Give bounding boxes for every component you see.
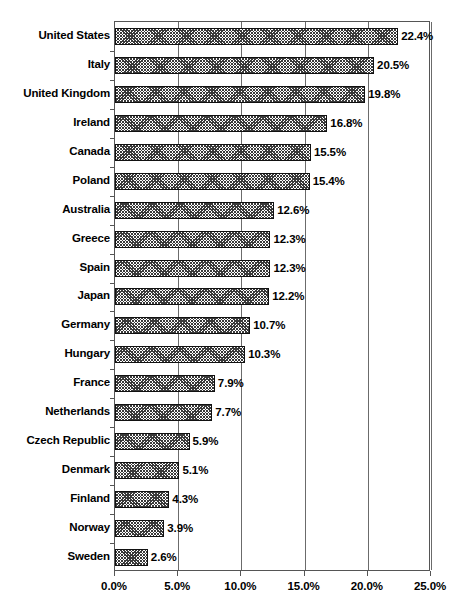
bar xyxy=(115,115,327,132)
y-axis-tick xyxy=(110,543,115,544)
bar-row: 7.7% xyxy=(115,404,431,421)
bar xyxy=(115,433,190,450)
y-axis-tick xyxy=(110,485,115,486)
bar-value-label: 16.8% xyxy=(330,115,362,132)
bar-row: 7.9% xyxy=(115,375,431,392)
bar xyxy=(115,288,269,305)
category-label: Australia xyxy=(2,201,110,218)
x-axis-tick xyxy=(367,571,368,576)
y-axis-tick xyxy=(110,51,115,52)
bar-value-label: 12.6% xyxy=(277,202,309,219)
bar xyxy=(115,549,148,566)
bar xyxy=(115,144,311,161)
bar-row: 2.6% xyxy=(115,549,431,566)
category-label: Finland xyxy=(2,490,110,507)
bar-row: 22.4% xyxy=(115,28,431,45)
bar-row: 15.4% xyxy=(115,173,431,190)
bar-value-label: 7.9% xyxy=(218,375,244,392)
category-label: Hungary xyxy=(2,345,110,362)
category-label: Sweden xyxy=(2,548,110,565)
y-axis-tick xyxy=(110,427,115,428)
bar-row: 12.6% xyxy=(115,202,431,219)
bar-row: 16.8% xyxy=(115,115,431,132)
bar xyxy=(115,260,270,277)
bar xyxy=(115,57,374,74)
y-axis-tick xyxy=(110,196,115,197)
category-label: France xyxy=(2,374,110,391)
category-label: Poland xyxy=(2,172,110,189)
category-label: United States xyxy=(2,27,110,44)
bar-value-label: 19.8% xyxy=(368,86,400,103)
bar-row: 5.1% xyxy=(115,462,431,479)
y-axis-category-labels: United StatesItalyUnited KingdomIrelandC… xyxy=(0,21,110,571)
x-axis-tick xyxy=(177,571,178,576)
bar-value-label: 5.9% xyxy=(193,433,219,450)
bar-value-label: 4.3% xyxy=(172,491,198,508)
category-label: Canada xyxy=(2,143,110,160)
y-axis-tick xyxy=(110,109,115,110)
category-label: Ireland xyxy=(2,114,110,131)
y-axis-tick xyxy=(110,311,115,312)
bar-row: 12.3% xyxy=(115,260,431,277)
bar-value-label: 3.9% xyxy=(167,520,193,537)
x-axis-tick-label: 0.0% xyxy=(101,580,127,592)
bar xyxy=(115,28,398,45)
bar-row: 20.5% xyxy=(115,57,431,74)
x-axis-tick xyxy=(304,571,305,576)
y-axis-tick xyxy=(110,456,115,457)
bar xyxy=(115,491,169,508)
bar-value-label: 10.7% xyxy=(253,317,285,334)
bar-row: 5.9% xyxy=(115,433,431,450)
bar-row: 19.8% xyxy=(115,86,431,103)
bar-value-label: 15.4% xyxy=(313,173,345,190)
x-axis-tick xyxy=(114,571,115,576)
y-axis-tick xyxy=(110,514,115,515)
bar-value-label: 12.3% xyxy=(273,231,305,248)
bar-row: 4.3% xyxy=(115,491,431,508)
category-label: Japan xyxy=(2,287,110,304)
bar-value-label: 7.7% xyxy=(215,404,241,421)
bar-value-label: 10.3% xyxy=(248,346,280,363)
y-axis-tick xyxy=(110,398,115,399)
x-axis-tick-label: 10.0% xyxy=(224,580,256,592)
bar xyxy=(115,346,245,363)
category-label: Greece xyxy=(2,230,110,247)
y-axis-tick xyxy=(110,369,115,370)
bar xyxy=(115,202,274,219)
bar-row: 3.9% xyxy=(115,520,431,537)
plot-area: 22.4%20.5%19.8%16.8%15.5%15.4%12.6%12.3%… xyxy=(114,21,430,571)
bar xyxy=(115,520,164,537)
bar-value-label: 22.4% xyxy=(401,28,433,45)
bar-row: 10.3% xyxy=(115,346,431,363)
bar-value-label: 12.2% xyxy=(272,288,304,305)
category-label: Czech Republic xyxy=(2,432,110,449)
y-axis-tick xyxy=(110,254,115,255)
x-axis-tick-label: 25.0% xyxy=(414,580,446,592)
bar-value-label: 2.6% xyxy=(151,549,177,566)
bar-row: 12.2% xyxy=(115,288,431,305)
category-label: Denmark xyxy=(2,461,110,478)
category-label: Spain xyxy=(2,259,110,276)
bar-chart: 22.4%20.5%19.8%16.8%15.5%15.4%12.6%12.3%… xyxy=(0,0,464,610)
bar xyxy=(115,317,250,334)
y-axis-tick xyxy=(110,167,115,168)
bar xyxy=(115,462,179,479)
category-label: Norway xyxy=(2,519,110,536)
bar xyxy=(115,404,212,421)
x-axis-tick-label: 15.0% xyxy=(288,580,320,592)
bar-row: 10.7% xyxy=(115,317,431,334)
y-axis-tick xyxy=(110,283,115,284)
y-axis-tick xyxy=(110,340,115,341)
x-axis-tick xyxy=(430,571,431,576)
bar xyxy=(115,173,310,190)
y-axis-tick xyxy=(110,138,115,139)
bar-value-label: 20.5% xyxy=(377,57,409,74)
bar-value-label: 12.3% xyxy=(273,260,305,277)
bar xyxy=(115,86,365,103)
bar-row: 12.3% xyxy=(115,231,431,248)
bar-value-label: 15.5% xyxy=(314,144,346,161)
x-axis-tick-label: 5.0% xyxy=(164,580,190,592)
category-label: Germany xyxy=(2,316,110,333)
category-label: United Kingdom xyxy=(2,85,110,102)
category-label: Netherlands xyxy=(2,403,110,420)
